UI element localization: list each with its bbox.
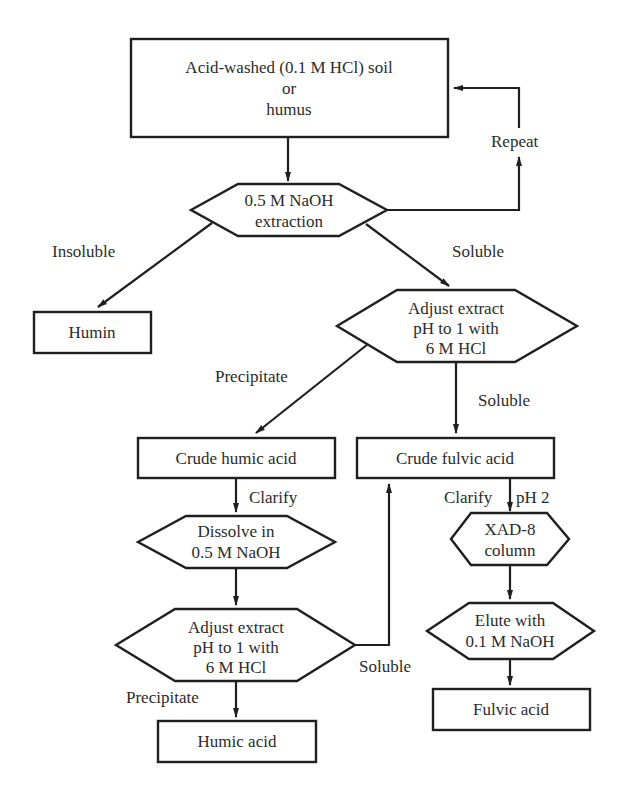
node-adjust-ph-1: Adjust extract pH to 1 with 6 M HCl: [337, 290, 577, 362]
node-adjust-ph-2-line-1: Adjust extract: [188, 618, 284, 637]
label-soluble-2: Soluble: [478, 391, 530, 410]
node-start-line-3: humus: [266, 100, 311, 119]
edge-repeat-return: [454, 88, 519, 128]
label-clarify-fulvic: Clarify: [444, 488, 493, 507]
node-elute: Elute with 0.1 M NaOH: [427, 603, 594, 659]
node-crude-fulvic: Crude fulvic acid: [357, 438, 554, 478]
node-crude-humic: Crude humic acid: [138, 438, 335, 478]
node-fulvic-acid-label: Fulvic acid: [473, 700, 550, 719]
label-soluble-3: Soluble: [359, 657, 411, 676]
edge-repeat-loop: [387, 157, 519, 210]
node-adjust-ph-2: Adjust extract pH to 1 with 6 M HCl: [116, 609, 355, 681]
node-xad8-line-2: column: [485, 541, 536, 560]
node-dissolve-line-1: Dissolve in: [198, 522, 275, 541]
node-start-line-2: or: [282, 79, 297, 98]
node-adjust-ph-2-line-3: 6 M HCl: [206, 658, 267, 677]
node-elute-line-1: Elute with: [475, 611, 546, 630]
node-dissolve: Dissolve in 0.5 M NaOH: [138, 516, 335, 568]
node-naoh-extraction-line-1: 0.5 M NaOH: [244, 191, 333, 210]
node-crude-humic-label: Crude humic acid: [176, 449, 297, 468]
label-precipitate-1: Precipitate: [215, 367, 288, 386]
label-ph2: pH 2: [516, 488, 550, 507]
node-humin-label: Humin: [68, 323, 116, 342]
edge-to-adjust-1: [366, 224, 449, 286]
node-fulvic-acid: Fulvic acid: [433, 689, 590, 730]
node-dissolve-line-2: 0.5 M NaOH: [191, 543, 280, 562]
edge-to-humin: [98, 223, 212, 307]
node-naoh-extraction: 0.5 M NaOH extraction: [191, 184, 387, 236]
node-humic-acid-label: Humic acid: [198, 732, 277, 751]
node-humic-acid: Humic acid: [158, 721, 316, 762]
node-adjust-ph-1-line-1: Adjust extract: [408, 299, 504, 318]
node-xad8: XAD-8 column: [451, 513, 569, 565]
node-xad8-line-1: XAD-8: [485, 520, 536, 539]
humic-fractionation-flowchart: Acid-washed (0.1 M HCl) soil or humus 0.…: [0, 0, 619, 796]
node-adjust-ph-2-line-2: pH to 1 with: [193, 638, 279, 657]
node-crude-fulvic-label: Crude fulvic acid: [396, 449, 515, 468]
node-adjust-ph-1-line-3: 6 M HCl: [426, 339, 487, 358]
node-naoh-extraction-line-2: extraction: [255, 212, 323, 231]
label-repeat: Repeat: [491, 132, 538, 151]
node-elute-line-2: 0.1 M NaOH: [465, 632, 554, 651]
label-insoluble: Insoluble: [52, 242, 115, 261]
label-soluble-1: Soluble: [452, 242, 504, 261]
edge-to-crude-humic: [256, 344, 368, 433]
label-clarify-humic: Clarify: [249, 488, 298, 507]
node-humin: Humin: [34, 312, 151, 353]
edge-adjust-2-to-crude-fulvic: [355, 484, 389, 645]
node-start: Acid-washed (0.1 M HCl) soil or humus: [131, 39, 448, 137]
node-adjust-ph-1-line-2: pH to 1 with: [413, 319, 499, 338]
node-start-line-1: Acid-washed (0.1 M HCl) soil: [185, 58, 393, 77]
label-precipitate-2: Precipitate: [126, 688, 199, 707]
